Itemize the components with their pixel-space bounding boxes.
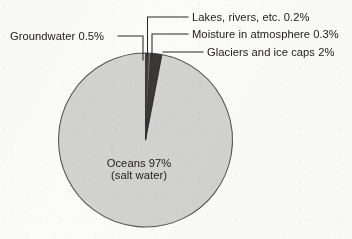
leader-line-lakes <box>148 17 189 57</box>
pie-chart-canvas: Groundwater 0.5% Lakes, rivers, etc. 0.2… <box>0 0 352 239</box>
label-oceans-sublabel: (salt water) <box>111 169 167 181</box>
pie-chart-figure: Groundwater 0.5% Lakes, rivers, etc. 0.2… <box>0 0 352 239</box>
label-oceans-value: Oceans 97% <box>107 157 172 169</box>
leader-lines <box>118 17 203 60</box>
label-lakes: Lakes, rivers, etc. 0.2% <box>192 11 309 23</box>
label-groundwater: Groundwater 0.5% <box>10 30 104 42</box>
label-glaciers: Glaciers and ice caps 2% <box>207 46 334 58</box>
label-moisture: Moisture in atmosphere 0.3% <box>192 28 339 40</box>
pie-slices <box>59 53 233 227</box>
